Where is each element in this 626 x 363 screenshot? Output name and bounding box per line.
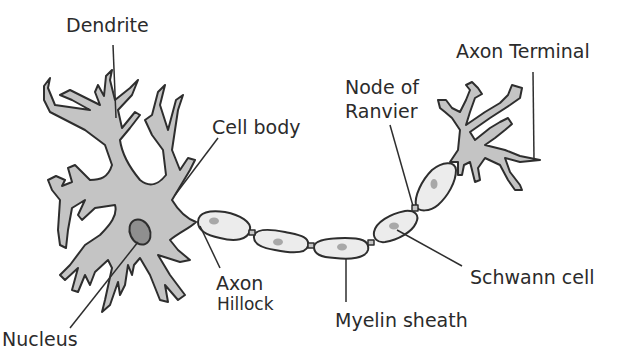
schwann-nucleus-5 [431,179,438,189]
schwann-nucleus-2 [273,239,283,246]
label-schwann-cell: Schwann cell [470,268,595,287]
schwann-cell-1 [198,211,250,240]
label-nucleus: Nucleus [2,330,78,349]
neuron-diagram: Dendrite Cell body Nucleus Axon Hillock … [0,0,626,363]
label-cell-body: Cell body [212,118,301,137]
label-ranvier: Ranvier [345,102,418,121]
label-dendrite: Dendrite [66,16,149,35]
leader-schwann-cell [397,230,462,266]
label-axon: Axon [216,274,263,293]
schwann-nucleus-1 [209,218,219,225]
label-axon-terminal: Axon Terminal [456,42,590,61]
label-node-of: Node of [345,78,419,97]
schwann-nucleus-4 [389,223,399,230]
label-hillock: Hillock [217,296,274,313]
leader-node-of-ranvier [390,125,413,206]
leader-axon-terminal [533,72,534,160]
schwann-nucleus-3 [337,244,347,251]
label-myelin-sheath: Myelin sheath [335,311,468,330]
cell-body-and-dendrites [44,70,196,312]
